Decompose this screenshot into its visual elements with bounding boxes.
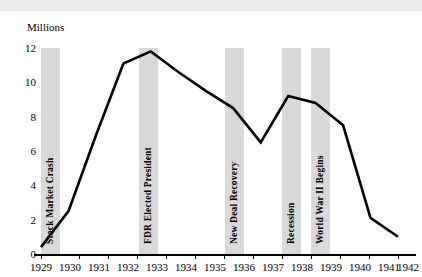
x-tick-1930 bbox=[79, 255, 80, 259]
x-label-1939: 1939 bbox=[315, 261, 347, 273]
x-label-1940: 1940 bbox=[344, 261, 376, 273]
x-label-1938: 1938 bbox=[286, 261, 318, 273]
x-tick-1940 bbox=[369, 255, 370, 259]
x-label-1932: 1932 bbox=[112, 261, 144, 273]
x-label-1929: 1929 bbox=[25, 261, 57, 273]
x-label-1931: 1931 bbox=[83, 261, 115, 273]
x-tick-1931 bbox=[108, 255, 109, 259]
x-tick-1929 bbox=[41, 255, 42, 259]
plot-area: Stock Market Crash FDR Elected President… bbox=[0, 0, 422, 277]
x-tick-1939 bbox=[340, 255, 341, 259]
chart-figure: Millions Stock Market Crash FDR Elected … bbox=[0, 0, 422, 277]
x-label-1930: 1930 bbox=[54, 261, 86, 273]
x-label-1937: 1937 bbox=[257, 261, 289, 273]
line-series-unemployment bbox=[0, 0, 422, 277]
x-axis-line bbox=[34, 254, 416, 256]
x-label-1934: 1934 bbox=[170, 261, 202, 273]
x-label-1942: 1942 bbox=[392, 261, 422, 273]
x-label-1935: 1935 bbox=[199, 261, 231, 273]
x-tick-1934 bbox=[195, 255, 196, 259]
x-label-1933: 1933 bbox=[141, 261, 173, 273]
x-label-1936: 1936 bbox=[228, 261, 260, 273]
x-tick-1937 bbox=[282, 255, 283, 259]
x-tick-1932 bbox=[137, 255, 138, 259]
x-tick-1936 bbox=[253, 255, 254, 259]
x-tick-1938 bbox=[311, 255, 312, 259]
x-tick-1941 bbox=[398, 255, 399, 259]
x-tick-1935 bbox=[224, 255, 225, 259]
x-tick-1933 bbox=[166, 255, 167, 259]
